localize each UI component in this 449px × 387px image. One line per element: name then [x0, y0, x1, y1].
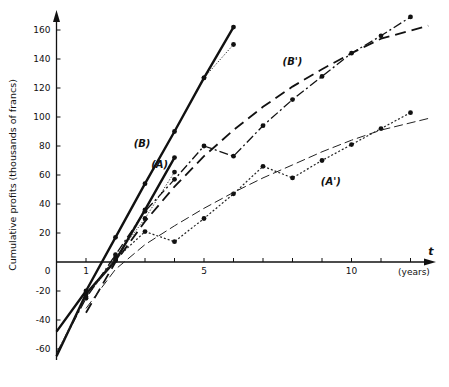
data-point [143, 209, 148, 214]
cumulative-profits-chart: 01510-60-40-2020406080100120140160t(year… [0, 0, 449, 387]
y-tick-label: 40 [39, 199, 51, 209]
data-point [113, 257, 118, 262]
series-line-5 [86, 26, 428, 313]
x-tick-label: 0 [45, 266, 51, 276]
x-axis-symbol: t [428, 245, 434, 258]
data-point [408, 110, 413, 115]
series-line-0 [57, 27, 234, 332]
series-line-4 [57, 17, 411, 353]
data-point [202, 75, 207, 80]
data-point [290, 176, 295, 181]
data-point [202, 144, 207, 149]
data-point [172, 155, 177, 160]
y-tick-label: 100 [33, 112, 50, 122]
data-point [172, 170, 177, 175]
y-axis-arrow-icon [53, 10, 60, 22]
series-label: (B') [283, 56, 303, 67]
data-point [231, 25, 236, 30]
data-point [320, 74, 325, 79]
series-line-6 [57, 113, 411, 354]
y-tick-label: -20 [36, 286, 51, 296]
data-point [261, 164, 266, 169]
y-axis-label: Cumulative profits (thousands of francs) [7, 79, 18, 271]
data-point [349, 142, 354, 147]
data-point [320, 158, 325, 163]
y-tick-label: 160 [33, 25, 50, 35]
series-group [57, 15, 429, 357]
data-point [379, 126, 384, 131]
data-point [231, 42, 236, 47]
y-tick-label: 80 [39, 141, 51, 151]
series-line-1 [204, 45, 234, 78]
series-label: (A') [321, 176, 341, 187]
data-point [172, 239, 177, 244]
y-tick-label: 60 [39, 170, 51, 180]
series-label: (A) [151, 159, 168, 170]
x-tick-label: 1 [83, 266, 89, 276]
data-point [172, 177, 177, 182]
data-point [408, 15, 413, 20]
y-tick-label: -40 [36, 315, 51, 325]
data-point [113, 235, 118, 240]
data-point [143, 229, 148, 234]
data-point [290, 97, 295, 102]
y-tick-label: 140 [33, 54, 50, 64]
y-tick-label: 120 [33, 83, 50, 93]
x-tick-label: 5 [201, 266, 207, 276]
data-point [261, 123, 266, 128]
series-label: (B) [134, 138, 151, 149]
x-axis-arrow-icon [424, 259, 436, 266]
y-tick-label: -60 [36, 344, 51, 354]
x-tick-label: 10 [346, 266, 358, 276]
data-point [113, 252, 118, 257]
data-point [84, 294, 89, 299]
x-axis-unit-label: (years) [398, 267, 430, 277]
data-point [143, 181, 148, 186]
data-point [231, 154, 236, 159]
data-point [172, 129, 177, 134]
data-point [202, 216, 207, 221]
y-tick-label: 20 [39, 228, 51, 238]
axes: 01510-60-40-2020406080100120140160t(year… [33, 10, 436, 360]
